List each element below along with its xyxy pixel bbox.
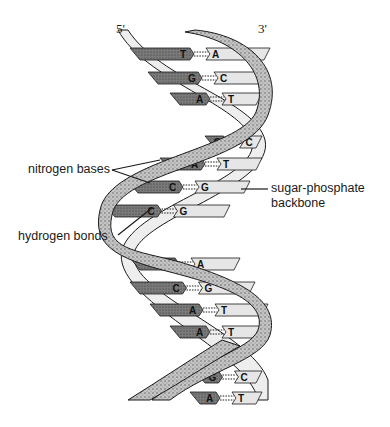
base-letter-right: T	[223, 159, 229, 170]
nitrogen-base-left	[190, 392, 220, 404]
base-letter-left: A	[189, 305, 196, 316]
base-letter-left: C	[169, 182, 176, 193]
base-letter-left: T	[180, 49, 186, 60]
base-letter-right: T	[228, 94, 234, 105]
five-prime-end-label: 5'	[116, 21, 125, 37]
base-letter-left: C	[173, 283, 180, 294]
nitrogen-base-left	[170, 326, 210, 338]
base-letter-left: G	[188, 73, 196, 84]
base-letter-right: A	[212, 49, 219, 60]
base-letter-left: C	[148, 206, 155, 217]
nitrogen-bases-label: nitrogen bases	[28, 162, 110, 177]
base-letter-left: A	[196, 94, 203, 105]
base-letter-right: T	[238, 393, 244, 404]
base-letter-right: C	[220, 73, 227, 84]
base-pair: AT	[190, 392, 262, 404]
dna-helix-diagram: TAGCATGCATCGCGTACGATATGCAT	[0, 0, 390, 427]
three-prime-end-label: 3'	[258, 21, 267, 37]
base-letter-left: A	[206, 393, 213, 404]
base-letter-right: T	[228, 327, 234, 338]
nitrogen-base-right	[232, 392, 262, 404]
base-pair: AT	[150, 304, 268, 316]
backbone-label: backbone	[271, 196, 325, 211]
base-letter-left: A	[196, 327, 203, 338]
sugar-phosphate-label: sugar-phosphate	[271, 181, 365, 196]
base-letter-right: T	[221, 305, 227, 316]
nitrogen-base-left	[170, 93, 210, 105]
base-letter-right: C	[241, 372, 248, 383]
hydrogen-bonds-label: hydrogen bonds	[18, 229, 108, 244]
base-pair: GC	[148, 72, 268, 84]
base-letter-right: G	[180, 206, 188, 217]
base-letter-right: G	[201, 182, 209, 193]
